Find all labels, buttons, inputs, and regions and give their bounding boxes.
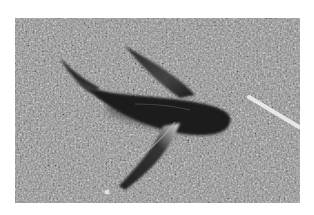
pebble	[105, 190, 110, 195]
flying-fish-photo	[15, 18, 300, 203]
photo	[15, 18, 300, 203]
